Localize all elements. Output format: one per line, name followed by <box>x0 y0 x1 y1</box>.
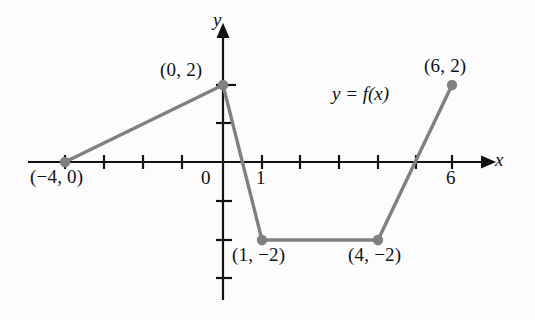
coordinate-plot <box>0 0 535 320</box>
x-tick-label-1: 1 <box>256 168 266 187</box>
data-point-0-2 <box>218 80 228 90</box>
x-tick-label-0: 0 <box>201 168 211 187</box>
function-annotation: y = f(x) <box>332 84 389 103</box>
point-label-neg4-0: (−4, 0) <box>30 167 83 186</box>
graph-figure: (−4, 0) (0, 2) (1, −2) (4, −2) (6, 2) 0 … <box>0 0 535 320</box>
y-axis-label: y <box>213 10 221 29</box>
point-label-6-2: (6, 2) <box>424 56 466 75</box>
point-label-0-2: (0, 2) <box>160 60 202 79</box>
data-point-6-2 <box>447 80 457 90</box>
x-tick-label-6: 6 <box>446 168 456 187</box>
x-axis-label: x <box>495 150 503 169</box>
point-label-4-neg2: (4, −2) <box>348 245 401 264</box>
point-label-1-neg2: (1, −2) <box>232 245 285 264</box>
